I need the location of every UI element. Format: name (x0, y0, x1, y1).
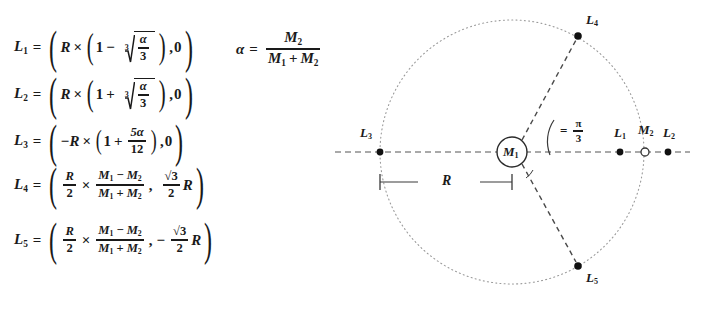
label-L2: L2 (663, 125, 675, 141)
close-paren-outer: ) (175, 115, 183, 168)
label-M2: M2 (638, 122, 654, 138)
equals-sign: = (33, 133, 42, 150)
radical-sign-icon (125, 80, 135, 110)
close-paren-outer: ) (204, 214, 212, 267)
angle-label-pi-over-3: = π 3 (560, 118, 586, 144)
point-marker-L4 (574, 32, 582, 40)
open-paren-outer: ( (49, 214, 57, 267)
close-paren-inner: ) (159, 27, 166, 68)
second-coordinate: 0 (174, 86, 182, 103)
open-paren-outer: ( (49, 21, 57, 74)
close-paren-outer: ) (185, 68, 193, 121)
fraction-sqrt3-over-2: √3 2 (171, 225, 188, 254)
sign-op: − (106, 39, 115, 56)
radius-line-to-L5 (522, 164, 576, 262)
equation-label-L5: L5 (14, 231, 28, 249)
second-coordinate: 0 (165, 133, 173, 150)
comma: , (169, 86, 173, 103)
comma: , (149, 177, 153, 194)
alpha-denominator: M1+M2 (266, 51, 321, 68)
term-one: 1 (96, 86, 104, 103)
equals-sign: = (249, 41, 258, 58)
lagrange-points-figure: L1 = ( R × ( 1 − 3 α 3 ) (0, 0, 704, 309)
label-M1: M1 (503, 144, 519, 160)
angle-arc (547, 120, 554, 155)
label-L3: L3 (360, 125, 372, 141)
fraction-5alpha-over-12: 5α 12 (128, 126, 145, 155)
equation-L4: L4 = ( R 2 × M1−M2 M1+M2 , √3 (14, 168, 207, 202)
equals-sign: = (33, 232, 42, 249)
point-marker-L3 (377, 149, 384, 156)
comma: , (160, 133, 164, 150)
angle-equals-sign: = (560, 123, 567, 139)
fraction-pi-over-3: π 3 (573, 118, 583, 144)
fraction-alpha-value: M2 M1+M2 (266, 30, 321, 68)
open-paren-outer: ( (49, 159, 57, 212)
radicand: α 3 (134, 78, 155, 109)
factor-negative-R: −R (60, 133, 79, 150)
mass-numerator: M1−M2 (96, 224, 143, 238)
times-sign: × (83, 133, 92, 150)
mass-numerator: M1−M2 (96, 169, 143, 183)
fraction-R-over-2: R 2 (63, 170, 75, 199)
equals-sign: = (33, 86, 42, 103)
cube-root: 3 α 3 (121, 78, 155, 109)
term-one: 1 (103, 133, 111, 150)
sign-op: + (114, 133, 123, 150)
fraction-sqrt3-over-2: √3 2 (163, 170, 180, 199)
times-sign: × (73, 86, 82, 103)
mass-denominator: M1+M2 (96, 242, 143, 256)
radicand: α 3 (134, 31, 155, 62)
point-marker-L5 (574, 262, 582, 270)
fraction-R-over-2: R 2 (63, 225, 75, 254)
sqrt3-numerator: √3 (163, 170, 180, 183)
close-paren-inner: ) (150, 125, 156, 156)
fraction-mass-ratio: M1−M2 M1+M2 (96, 224, 143, 257)
open-paren-inner: ( (87, 27, 94, 68)
label-L5: L5 (586, 270, 598, 286)
equation-alpha-definition: α = M2 M1+M2 (236, 30, 323, 68)
sign-op: + (106, 86, 115, 103)
label-L1: L1 (614, 125, 626, 141)
fraction-alpha-over-3: α 3 (138, 33, 149, 62)
equation-label-L1: L1 (14, 38, 28, 56)
times-sign: × (73, 39, 82, 56)
fraction-mass-ratio: M1−M2 M1+M2 (96, 169, 143, 202)
label-L4: L4 (586, 12, 598, 28)
close-paren-outer: ) (196, 159, 204, 212)
alpha-numerator: M2 (282, 30, 304, 47)
equation-label-L4: L4 (14, 176, 28, 194)
fraction-alpha-over-3: α 3 (138, 80, 149, 109)
y-factor-R: R (191, 232, 201, 249)
point-marker-L1 (617, 149, 624, 156)
equation-panel: L1 = ( R × ( 1 − 3 α 3 ) (0, 0, 340, 309)
label-radius-R: R (442, 173, 451, 189)
y-sign: − (157, 232, 166, 249)
comma: , (149, 232, 153, 249)
equation-L2: L2 = ( R × ( 1 + 3 α 3 ) (14, 77, 196, 111)
radical-sign-icon (125, 33, 135, 63)
factor-R: R (60, 39, 70, 56)
cube-root: 3 α 3 (121, 31, 155, 62)
times-sign: × (82, 232, 91, 249)
equation-label-L2: L2 (14, 85, 28, 103)
equation-L1: L1 = ( R × ( 1 − 3 α 3 ) (14, 30, 196, 64)
factor-R: R (60, 86, 70, 103)
y-factor-R: R (183, 177, 193, 194)
open-paren-outer: ( (49, 68, 57, 121)
equals-sign: = (33, 39, 42, 56)
orbital-diagram: M1 L3 L1 M2 L2 L4 L5 = π 3 (330, 0, 704, 309)
open-paren-inner: ( (87, 74, 94, 115)
term-one: 1 (96, 39, 104, 56)
close-paren-inner: ) (159, 74, 166, 115)
alpha-symbol: α (236, 41, 244, 58)
equation-L3: L3 = ( −R × ( 1 + 5α 12 ) , 0 ) (14, 124, 186, 158)
equals-sign: = (33, 177, 42, 194)
times-sign: × (82, 177, 91, 194)
equation-L5: L5 = ( R 2 × M1−M2 M1+M2 , − √3 (14, 223, 215, 257)
close-paren-outer: ) (185, 21, 193, 74)
comma: , (169, 39, 173, 56)
equation-label-L3: L3 (14, 132, 28, 150)
point-marker-L2 (665, 149, 672, 156)
sqrt3-numerator: √3 (171, 225, 188, 238)
